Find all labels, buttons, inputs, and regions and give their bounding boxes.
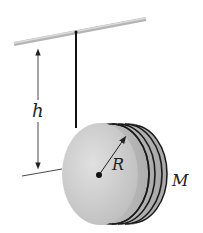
center-dot [96,172,102,178]
disk [62,123,167,225]
radius-label: R [111,155,124,174]
mass-label: M [171,171,189,190]
yo-yo-diagram: h R M [0,0,203,233]
string-knot [75,31,78,34]
height-label: h [32,100,44,121]
ceiling-bar [14,18,146,44]
